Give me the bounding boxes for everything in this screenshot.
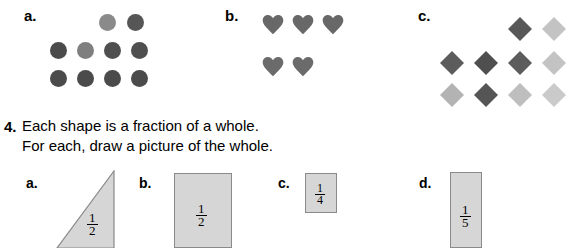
fraction-label-b: 1 2 (196, 203, 207, 227)
diamond-icon (542, 51, 566, 75)
diamond-icon (440, 51, 464, 75)
fraction-numerator: 1 (196, 203, 207, 214)
fraction-label-d: 1 5 (460, 204, 471, 228)
fraction-item-label-d: d. (419, 176, 431, 190)
fraction-numerator: 1 (460, 204, 471, 215)
diamond-icon (440, 83, 464, 107)
problem-line-2: For each, draw a picture of the whole. (22, 136, 424, 156)
fraction-denominator: 5 (460, 216, 471, 228)
diamond-icon (508, 51, 532, 75)
triangle-shape-a (56, 170, 116, 248)
diamond-icon (508, 17, 532, 41)
fraction-figures-row: a. 1 2 b. 1 2 c. 1 4 d. 1 5 (0, 160, 577, 244)
problem-number: 4. (4, 118, 17, 135)
diamond-icon (542, 17, 566, 41)
diamond-icon (508, 83, 532, 107)
diamond-icon (474, 83, 498, 107)
fraction-item-label-b: b. (139, 176, 151, 190)
fraction-label-c: 1 4 (315, 183, 325, 205)
fraction-item-label-a: a. (26, 176, 38, 190)
fraction-label-a: 1 2 (87, 212, 98, 236)
diamond-group-c (0, 0, 577, 110)
fraction-denominator: 2 (196, 215, 207, 227)
top-exercise-row: a. b. (0, 0, 577, 110)
problem-line-1: Each shape is a fraction of a whole. (22, 116, 424, 136)
fraction-item-label-c: c. (278, 176, 290, 190)
fraction-denominator: 2 (87, 224, 98, 236)
diamond-icon (542, 83, 566, 107)
diamond-icon (474, 51, 498, 75)
problem-statement: Each shape is a fraction of a whole. For… (22, 116, 424, 156)
fraction-numerator: 1 (87, 212, 98, 223)
fraction-numerator: 1 (315, 183, 325, 193)
problem-4: 4. Each shape is a fraction of a whole. … (4, 116, 424, 156)
fraction-denominator: 4 (315, 194, 325, 205)
